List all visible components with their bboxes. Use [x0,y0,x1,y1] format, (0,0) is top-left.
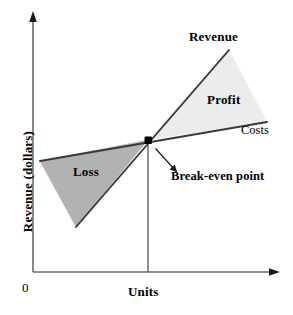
x-axis-arrowhead-icon [269,268,280,276]
break-even-annotation-arrow-shaft [156,149,175,170]
origin-label: 0 [22,281,29,294]
y-axis-label: Revenue (dollars) [21,112,34,252]
chart-canvas [0,0,293,315]
y-axis-arrowhead-icon [29,11,37,22]
loss-region [40,140,148,227]
revenue-line [76,50,229,227]
x-axis-label: Units [128,285,159,298]
revenue-line-label: Revenue [189,30,238,43]
loss-region-label: Loss [73,165,99,178]
costs-line-label: Costs [241,124,269,137]
costs-line [40,122,267,161]
break-even-point-marker [145,137,153,145]
profit-region-label: Profit [207,93,240,106]
break-even-chart-figure: Revenue Profit Costs Loss Break-even poi… [0,0,293,315]
break-even-point-label: Break-even point [171,170,264,183]
